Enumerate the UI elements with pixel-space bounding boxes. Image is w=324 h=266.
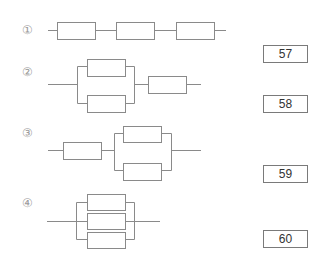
block — [88, 60, 126, 77]
answer-box-60: 60 — [263, 230, 308, 248]
diagram-2-parallel-series — [48, 60, 201, 113]
block — [58, 23, 96, 40]
diagram-canvas: ① ② ③ ④ — [0, 0, 324, 266]
block — [124, 164, 162, 181]
answer-box-59: 59 — [263, 165, 308, 183]
block — [124, 127, 162, 143]
answer-box-58: 58 — [263, 95, 308, 113]
block — [88, 96, 126, 113]
circuit-diagrams — [0, 0, 324, 266]
diagram-1-series — [48, 23, 226, 40]
block — [88, 214, 126, 230]
block — [117, 23, 155, 40]
diagram-4-parallel — [47, 195, 160, 249]
block — [88, 233, 126, 249]
diagram-3-series-parallel — [48, 127, 201, 181]
block — [177, 23, 215, 40]
answer-box-57: 57 — [263, 45, 308, 63]
block — [149, 77, 187, 94]
block — [88, 195, 126, 211]
block — [64, 143, 102, 160]
